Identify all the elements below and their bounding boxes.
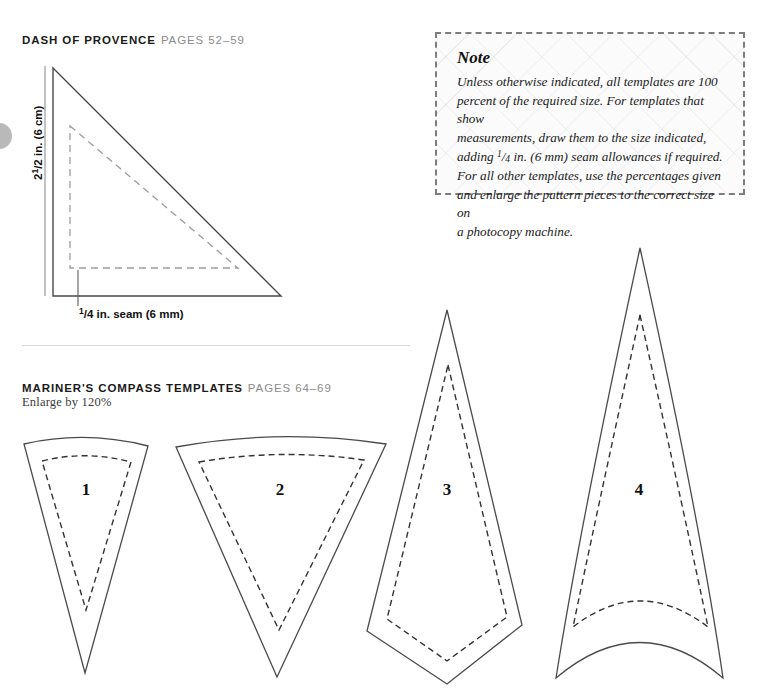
- compass-template-3-seam-line: [387, 365, 507, 661]
- height-denominator: 2: [32, 159, 44, 165]
- section-subtitle-enlarge: Enlarge by 120%: [22, 395, 112, 410]
- compass-template-3-number: 3: [443, 480, 452, 500]
- section-header-mariners-compass: MARINER'S COMPASS TEMPLATESPAGES 64–69: [22, 378, 332, 396]
- section-title: MARINER'S COMPASS TEMPLATES: [22, 382, 243, 394]
- triangle-seam-line: [70, 126, 238, 268]
- compass-template-4-cut-line: [556, 248, 723, 678]
- section-pages: PAGES 64–69: [248, 382, 332, 394]
- compass-template-2-number: 2: [276, 480, 285, 500]
- triangle-seam-label: 1/4 in. seam (6 mm): [79, 306, 183, 320]
- height-units: in. (6 cm): [32, 106, 44, 160]
- section-divider: [22, 345, 410, 346]
- height-slash: /: [32, 166, 44, 169]
- height-numerator: 1: [30, 169, 40, 174]
- triangle-height-label: 21/2 in. (6 cm): [30, 88, 44, 198]
- template-sheet-page: DASH OF PROVENCEPAGES 52–59 Note Unless …: [0, 0, 761, 689]
- triangle-cut-line: [53, 68, 281, 296]
- compass-template-2-cut-line: [176, 437, 386, 677]
- compass-template-4-number: 4: [635, 480, 644, 500]
- seam-units: in. seam (6 mm): [93, 308, 183, 320]
- height-whole: 2: [32, 174, 44, 180]
- compass-template-1-cut-line: [24, 437, 148, 673]
- compass-template-1-number: 1: [82, 480, 91, 500]
- compass-template-1-seam-line: [42, 456, 131, 610]
